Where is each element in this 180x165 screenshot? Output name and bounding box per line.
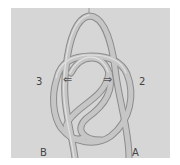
label-b: B [40,148,47,158]
label-2: 2 [139,77,145,87]
label-3: 3 [36,77,42,87]
left-arrow-icon: ⇐ [63,75,72,85]
right-arrow-icon: ⇒ [103,75,112,85]
label-a: A [132,148,139,158]
knot-photo: 3 2 ⇐ ⇒ B A [11,8,170,158]
rope-knot-illustration [11,8,170,158]
